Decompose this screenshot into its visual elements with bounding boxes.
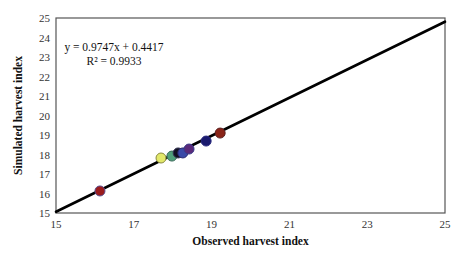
- x-axis-title: Observed harvest index: [192, 235, 309, 247]
- y-tick-label: 20: [39, 110, 51, 122]
- x-tick-label: 15: [51, 218, 63, 230]
- x-tick-label: 17: [128, 218, 140, 230]
- y-tick-label: 23: [39, 51, 51, 63]
- data-points: [95, 128, 225, 196]
- equation-label: y = 0.9747x + 0.4417: [64, 41, 163, 54]
- r-squared-label: R² = 0.9933: [87, 55, 142, 67]
- data-point: [95, 186, 105, 196]
- x-tick-label: 25: [440, 218, 452, 230]
- data-point: [184, 144, 194, 154]
- y-tick-label: 19: [39, 129, 51, 141]
- y-tick-label: 24: [39, 32, 51, 44]
- x-tick-label: 21: [284, 218, 295, 230]
- y-tick-label: 25: [39, 12, 51, 24]
- y-tick-label: 22: [39, 71, 50, 83]
- x-tick-label: 23: [362, 218, 374, 230]
- y-axis-ticks: 1516171819202122232425: [39, 12, 51, 219]
- y-tick-label: 15: [39, 207, 51, 219]
- data-point: [156, 153, 166, 163]
- y-tick-label: 17: [39, 168, 51, 180]
- x-axis-ticks: 151719212325: [51, 218, 452, 230]
- y-tick-label: 18: [39, 149, 51, 161]
- y-tick-label: 21: [39, 90, 50, 102]
- data-point: [201, 136, 211, 146]
- scatter-chart: 1516171819202122232425 151719212325 y = …: [0, 0, 466, 258]
- y-axis-title: Simulated harvest index: [12, 56, 24, 175]
- x-tick-label: 19: [206, 218, 218, 230]
- y-tick-label: 16: [39, 188, 51, 200]
- data-point: [215, 128, 225, 138]
